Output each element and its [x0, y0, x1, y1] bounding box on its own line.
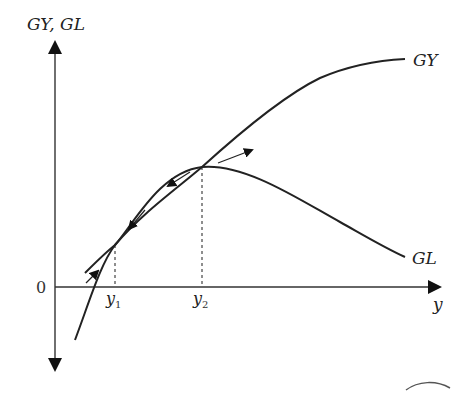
direction-arrows — [86, 150, 252, 283]
y-axis — [48, 40, 62, 372]
arrow-icon — [218, 150, 252, 163]
origin-label: 0 — [36, 278, 46, 297]
y1-tick-label: y 1 — [105, 289, 121, 310]
gy-gl-diagram: GY, GL 0 y GY GL y 1 y 2 — [0, 0, 470, 393]
gl-curve — [85, 167, 405, 273]
y-axis-down-arrow-icon — [48, 358, 62, 372]
y-axis-label: GY, GL — [27, 14, 85, 34]
gy-label: GY — [413, 50, 439, 70]
y-axis-up-arrow-icon — [48, 40, 62, 54]
gy-curve — [75, 59, 405, 340]
x-axis-arrow-icon — [428, 280, 442, 294]
gl-label: GL — [412, 248, 437, 268]
arrow-icon — [129, 210, 145, 229]
y2-tick-label: y 2 — [192, 289, 208, 310]
svg-text:2: 2 — [202, 299, 208, 310]
svg-text:1: 1 — [115, 299, 121, 310]
x-axis-label: y — [432, 294, 443, 314]
decorative-arc — [406, 383, 450, 390]
